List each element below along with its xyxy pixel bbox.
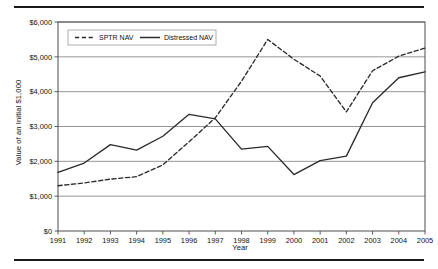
y-tick-label: $2,000 — [29, 157, 52, 166]
legend-label-sptr-nav: SPTR NAV — [99, 34, 134, 41]
legend-label-distressed-nav: Distressed NAV — [164, 34, 213, 41]
top-rule — [14, 6, 424, 8]
y-tick-label: $5,000 — [29, 53, 52, 62]
series-line-distressed-nav — [58, 72, 425, 175]
bottom-rule — [14, 259, 424, 261]
y-axis-title: Value of an Initial $1,000 — [14, 43, 23, 203]
line-chart: $0$1,000$2,000$3,000$4,000$5,000$6,00019… — [0, 10, 438, 258]
y-tick-label: $0 — [44, 227, 52, 236]
chart-area: $0$1,000$2,000$3,000$4,000$5,000$6,00019… — [0, 10, 438, 258]
y-tick-label: $4,000 — [29, 87, 52, 96]
y-tick-label: $3,000 — [29, 122, 52, 131]
y-tick-label: $6,000 — [29, 18, 52, 27]
figure-container: $0$1,000$2,000$3,000$4,000$5,000$6,00019… — [0, 0, 438, 269]
x-axis-title: Year — [60, 243, 420, 252]
series-line-sptr-nav — [58, 39, 425, 185]
y-tick-label: $1,000 — [29, 192, 52, 201]
